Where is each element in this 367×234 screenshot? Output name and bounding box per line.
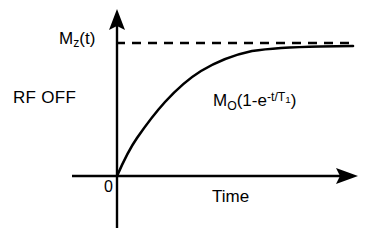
nmr-t1-relaxation-figure: Mz(t) RF OFF MO(1-e-t/T1) 0 Time xyxy=(0,0,367,234)
curve-equation-annotation: MO(1-e-t/T1) xyxy=(213,91,296,112)
formula-exponent-numerator: -t/T xyxy=(267,90,285,104)
mz-base: M xyxy=(59,29,73,48)
formula-m-subscript: O xyxy=(227,99,237,113)
rf-off-annotation: RF OFF xyxy=(13,89,76,106)
origin-label: 0 xyxy=(104,179,113,195)
x-axis-title: Time xyxy=(212,188,249,205)
formula-close: ) xyxy=(291,91,297,110)
y-axis-value-label: Mz(t) xyxy=(59,30,95,50)
formula-m-base: M xyxy=(213,91,227,110)
plot-canvas xyxy=(0,0,367,234)
formula-exponent: -t/T1 xyxy=(267,90,291,104)
formula-open: (1-e xyxy=(237,91,267,110)
mz-suffix: (t) xyxy=(79,29,95,48)
